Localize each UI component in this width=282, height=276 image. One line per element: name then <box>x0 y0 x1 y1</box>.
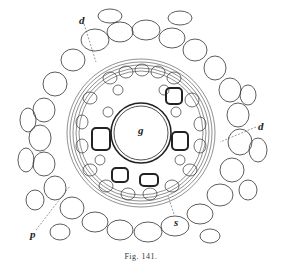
label-d-right: d <box>258 120 264 132</box>
cell-diagram-svg <box>0 0 282 276</box>
label-s: s <box>174 216 178 228</box>
label-g-center: g <box>138 124 144 136</box>
figure-caption: Fig. 141. <box>0 252 282 261</box>
root-cross-section-illustration: d d g p s <box>0 0 282 276</box>
label-p: p <box>30 228 36 240</box>
label-d-top: d <box>79 14 85 26</box>
